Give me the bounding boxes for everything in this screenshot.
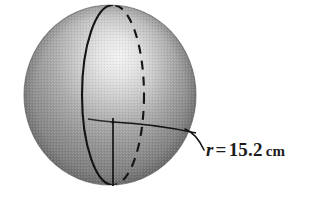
sphere-figure-svg xyxy=(0,0,329,201)
sphere-center-point xyxy=(111,120,114,123)
sphere-body xyxy=(24,5,196,185)
sphere-halftone-texture xyxy=(24,5,196,185)
figure-root: r=15.2cm xyxy=(0,0,329,201)
